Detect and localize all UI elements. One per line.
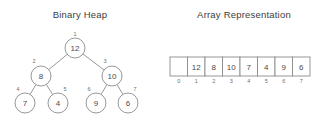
array-cell-7: 67 bbox=[293, 57, 311, 84]
array-cell-value: 8 bbox=[212, 63, 217, 72]
array-cell-value: 7 bbox=[247, 63, 252, 72]
array-cell-index-label: 7 bbox=[300, 78, 303, 84]
array-cell-3: 103 bbox=[223, 57, 241, 84]
array-cell-value: 10 bbox=[227, 63, 236, 72]
array-cell-index-label: 6 bbox=[282, 78, 285, 84]
array-graphic: 01218210374459667 bbox=[0, 0, 324, 124]
array-cell-index-label: 2 bbox=[212, 78, 215, 84]
array-cell-4: 74 bbox=[240, 57, 258, 84]
array-cell-5: 45 bbox=[258, 57, 276, 84]
binary-heap-figure: Binary Heap Array Representation 1218210… bbox=[0, 0, 324, 124]
array-cell-index-label: 4 bbox=[247, 78, 250, 84]
array-cell-2: 82 bbox=[205, 57, 223, 84]
array-cell-value: 12 bbox=[192, 63, 201, 72]
array-cell-index-label: 5 bbox=[265, 78, 268, 84]
array-cell-value: 4 bbox=[264, 63, 269, 72]
array-cell-0: 0 bbox=[170, 57, 188, 84]
array-cell-1: 121 bbox=[188, 57, 206, 84]
array-cell-box bbox=[170, 57, 188, 76]
array-cell-value: 9 bbox=[282, 63, 287, 72]
array-cell-value: 6 bbox=[299, 63, 304, 72]
array-cell-6: 96 bbox=[275, 57, 293, 84]
array-cell-index-label: 1 bbox=[195, 78, 198, 84]
array-cell-group: 01218210374459667 bbox=[170, 57, 310, 84]
array-cell-index-label: 3 bbox=[230, 78, 233, 84]
array-cell-index-label: 0 bbox=[177, 78, 180, 84]
